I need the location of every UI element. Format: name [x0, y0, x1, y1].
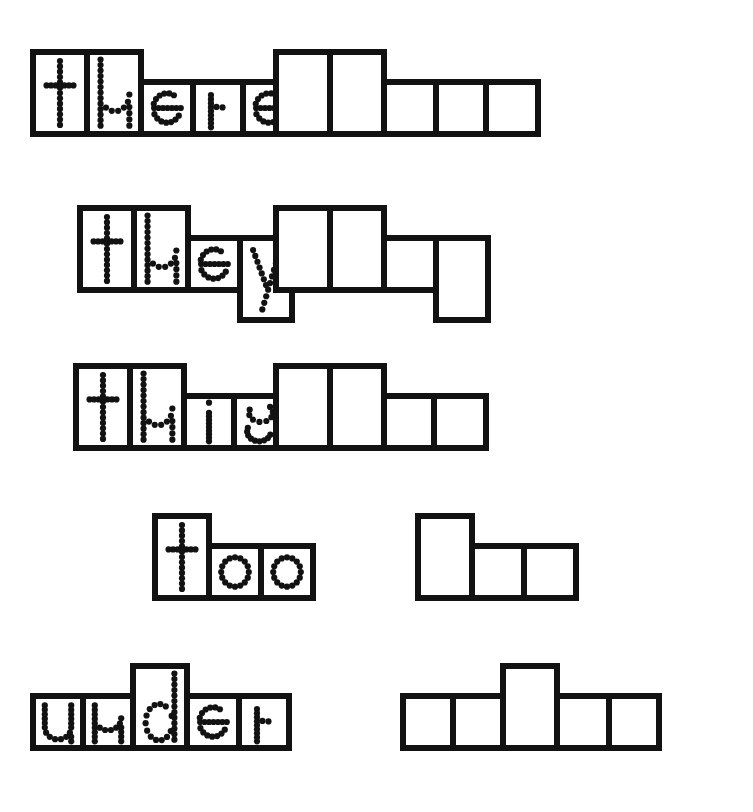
traced-letter-box-e — [184, 693, 242, 751]
dotted-letter-n-icon — [86, 699, 130, 745]
writing-box-5[interactable] — [606, 693, 662, 751]
word-row-under — [0, 0, 753, 812]
dotted-letter-r-icon — [242, 699, 286, 745]
traced-letter-box-r — [236, 693, 292, 751]
writing-box-2[interactable] — [450, 693, 506, 751]
traced-letter-box-u — [30, 693, 86, 751]
traced-letter-box-n — [80, 693, 136, 751]
traced-letter-box-d — [130, 663, 190, 751]
dotted-letter-e-icon — [190, 699, 236, 745]
dotted-letter-u-icon — [36, 699, 80, 745]
dotted-letter-d-icon — [136, 669, 184, 745]
worksheet-page — [0, 0, 753, 812]
writing-box-4[interactable] — [554, 693, 612, 751]
writing-box-1[interactable] — [400, 693, 456, 751]
writing-box-3[interactable] — [500, 663, 560, 751]
